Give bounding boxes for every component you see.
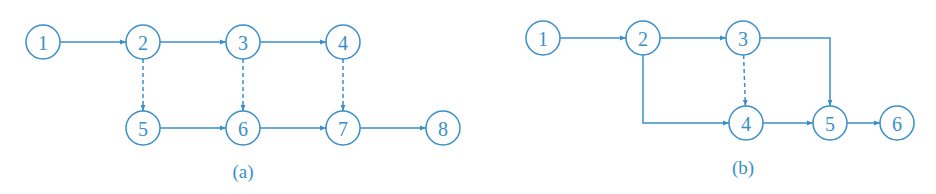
- node-label: 6: [238, 118, 248, 140]
- node-label: 2: [638, 28, 648, 50]
- node-label: 2: [138, 32, 148, 54]
- diagram-b: 123456(b): [526, 21, 914, 179]
- b-edge-2-to-4: [643, 55, 729, 123]
- a-node-2: 2: [126, 25, 160, 59]
- a-node-8: 8: [426, 111, 460, 145]
- diagram-a: 12345678(a): [26, 25, 460, 183]
- a-node-7: 7: [326, 111, 360, 145]
- b-edge-3-to-5: [760, 38, 830, 106]
- b-edge-3-to-4-dummy: [744, 55, 746, 106]
- node-label: 5: [825, 113, 835, 135]
- b-node-3: 3: [726, 21, 760, 55]
- node-label: 8: [438, 118, 448, 140]
- node-label: 3: [238, 32, 248, 54]
- node-label: 6: [892, 113, 902, 135]
- b-node-5: 5: [813, 106, 847, 140]
- a-node-3: 3: [226, 25, 260, 59]
- b-node-2: 2: [626, 21, 660, 55]
- node-label: 7: [338, 118, 348, 140]
- b-node-4: 4: [729, 106, 763, 140]
- b-node-1: 1: [526, 21, 560, 55]
- node-label: 4: [338, 32, 348, 54]
- a-node-4: 4: [326, 25, 360, 59]
- a-node-6: 6: [226, 111, 260, 145]
- caption-a: (a): [232, 161, 253, 183]
- node-label: 5: [138, 118, 148, 140]
- caption-b: (b): [732, 157, 754, 179]
- node-label: 3: [738, 28, 748, 50]
- node-label: 1: [38, 32, 48, 54]
- network-diagram-canvas: 12345678(a) 123456(b): [0, 0, 936, 194]
- node-label: 1: [538, 28, 548, 50]
- b-node-6: 6: [880, 106, 914, 140]
- a-node-5: 5: [126, 111, 160, 145]
- node-label: 4: [741, 113, 751, 135]
- a-node-1: 1: [26, 25, 60, 59]
